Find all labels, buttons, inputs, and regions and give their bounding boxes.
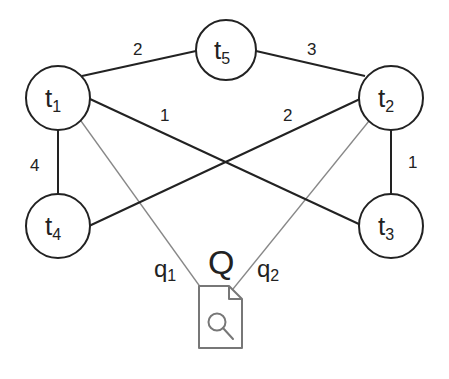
query-edge-q1 (81, 121, 201, 288)
node-t1: t1 (26, 66, 90, 130)
node-t5: t5 (196, 20, 256, 80)
query-label-q1: q1 (154, 255, 176, 284)
edge-weight-t4-t2: 2 (283, 106, 292, 125)
edge-weight-t2-t3: 1 (408, 153, 417, 172)
edge-weight-t1-t5: 2 (133, 40, 142, 59)
query-edge-q2 (233, 121, 369, 289)
node-t3: t3 (359, 194, 423, 258)
graph-diagram: 2 3 1 2 4 1 t1 t2 t3 t4 t5 q1 q2 Q (0, 0, 449, 379)
query-label-q2: q2 (257, 255, 279, 284)
document-search-icon (199, 286, 242, 348)
edge-weight-t5-t2: 3 (307, 40, 316, 59)
node-t2: t2 (359, 66, 423, 130)
edge-weight-t1-t4: 4 (30, 156, 39, 175)
query-title: Q (208, 243, 234, 281)
node-t4: t4 (26, 194, 90, 258)
edge-weight-t1-t3: 1 (160, 106, 169, 125)
